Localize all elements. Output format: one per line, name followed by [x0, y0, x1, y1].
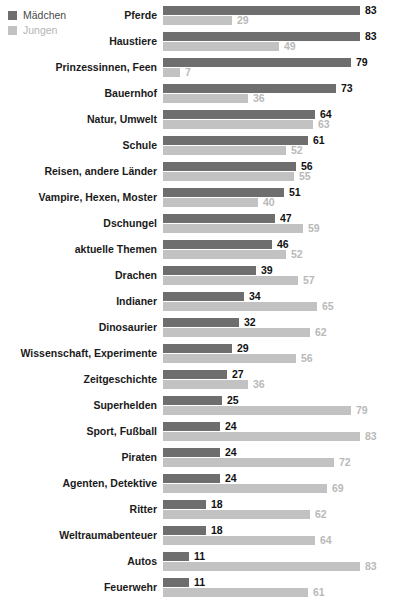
bar-boys [163, 42, 279, 51]
bar-group: 5655 [163, 162, 394, 181]
bar-line-girls: 34 [163, 292, 394, 301]
bar-girls [163, 396, 222, 405]
bar-value-girls: 46 [277, 238, 289, 250]
bar-value-boys: 61 [313, 586, 325, 598]
bar-group: 2956 [163, 344, 394, 363]
category-label: Haustiere [0, 32, 157, 51]
category-label: Superhelden [0, 396, 157, 415]
chart-row: Reisen, andere Länder5655 [0, 162, 394, 188]
bar-line-girls: 51 [163, 188, 394, 197]
chart-row: Prinzessinnen, Feen797 [0, 58, 394, 84]
bar-value-boys: 52 [291, 144, 303, 156]
bar-value-boys: 69 [332, 482, 344, 494]
chart-row: Superhelden2579 [0, 396, 394, 422]
bar-line-boys: 52 [163, 146, 394, 155]
bar-group: 3957 [163, 266, 394, 285]
category-label: Indianer [0, 292, 157, 311]
chart-row: Ritter1862 [0, 500, 394, 526]
bar-value-boys: 29 [237, 14, 249, 26]
bar-value-girls: 25 [227, 394, 239, 406]
bar-line-boys: 62 [163, 510, 394, 519]
bar-girls [163, 500, 206, 509]
bar-value-girls: 18 [211, 498, 223, 510]
bar-value-boys: 55 [299, 170, 311, 182]
chart-row: Indianer3465 [0, 292, 394, 318]
chart-row: Vampire, Hexen, Moster5140 [0, 188, 394, 214]
bar-group: 1862 [163, 500, 394, 519]
bar-girls [163, 84, 336, 93]
bar-line-boys: 55 [163, 172, 394, 181]
category-label: Dinosaurier [0, 318, 157, 337]
bar-value-boys: 79 [356, 404, 368, 416]
bar-line-girls: 56 [163, 162, 394, 171]
chart-row: Wissenschaft, Experimente2956 [0, 344, 394, 370]
bar-boys [163, 536, 315, 545]
bar-line-girls: 11 [163, 578, 394, 587]
bar-value-girls: 79 [356, 56, 368, 68]
bar-value-boys: 57 [303, 274, 315, 286]
category-label: Sport, Fußball [0, 422, 157, 441]
category-label: Bauernhof [0, 84, 157, 103]
bar-value-boys: 83 [365, 560, 377, 572]
bar-line-boys: 59 [163, 224, 394, 233]
bar-group: 4652 [163, 240, 394, 259]
bar-line-girls: 32 [163, 318, 394, 327]
bar-line-boys: 83 [163, 432, 394, 441]
category-label: Ritter [0, 500, 157, 519]
chart-row: Dschungel4759 [0, 214, 394, 240]
bar-line-boys: 63 [163, 120, 394, 129]
bar-girls [163, 344, 232, 353]
bar-boys [163, 406, 351, 415]
bar-boys [163, 198, 258, 207]
category-label: Pferde [0, 6, 157, 25]
bar-girls [163, 552, 189, 561]
bar-value-boys: 62 [315, 326, 327, 338]
category-label: Prinzessinnen, Feen [0, 58, 157, 77]
bar-line-girls: 61 [163, 136, 394, 145]
bar-line-boys: 72 [163, 458, 394, 467]
bar-group: 7336 [163, 84, 394, 103]
bar-group: 6152 [163, 136, 394, 155]
bar-group: 6463 [163, 110, 394, 129]
bar-line-girls: 29 [163, 344, 394, 353]
bar-boys [163, 328, 310, 337]
bar-group: 2469 [163, 474, 394, 493]
bar-value-boys: 7 [185, 66, 191, 78]
bar-line-boys: 61 [163, 588, 394, 597]
bar-boys [163, 588, 308, 597]
category-label: Schule [0, 136, 157, 155]
bar-value-boys: 52 [291, 248, 303, 260]
category-label: Feuerwehr [0, 578, 157, 597]
bar-line-boys: 69 [163, 484, 394, 493]
bar-group: 797 [163, 58, 394, 77]
bar-value-girls: 18 [211, 524, 223, 536]
bar-line-girls: 39 [163, 266, 394, 275]
bar-value-boys: 63 [318, 118, 330, 130]
bar-value-boys: 83 [365, 430, 377, 442]
bar-girls [163, 422, 220, 431]
bar-group: 1183 [163, 552, 394, 571]
bar-boys [163, 302, 317, 311]
bar-girls [163, 214, 275, 223]
bar-line-girls: 83 [163, 6, 394, 15]
bar-line-girls: 73 [163, 84, 394, 93]
bar-boys [163, 68, 180, 77]
bar-group: 5140 [163, 188, 394, 207]
bar-line-boys: 7 [163, 68, 394, 77]
bar-boys [163, 510, 310, 519]
bar-line-boys: 65 [163, 302, 394, 311]
bar-line-girls: 79 [163, 58, 394, 67]
bar-value-boys: 62 [315, 508, 327, 520]
chart-row: Dinosaurier3262 [0, 318, 394, 344]
bar-value-boys: 56 [301, 352, 313, 364]
bar-value-girls: 39 [261, 264, 273, 276]
bar-value-boys: 49 [284, 40, 296, 52]
chart-row: Agenten, Detektive2469 [0, 474, 394, 500]
category-label: Piraten [0, 448, 157, 467]
bar-value-girls: 73 [341, 82, 353, 94]
bar-value-boys: 59 [308, 222, 320, 234]
bar-value-boys: 40 [263, 196, 275, 208]
category-label: Zeitgeschichte [0, 370, 157, 389]
bar-girls [163, 448, 220, 457]
bar-value-boys: 72 [339, 456, 351, 468]
